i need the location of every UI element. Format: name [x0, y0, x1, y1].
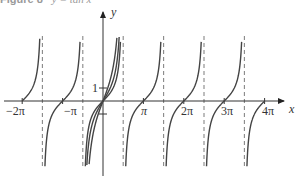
x-tick-label-3pi: 3π [221, 104, 233, 118]
x-tick-label-neg2pi: −2π [6, 104, 25, 118]
x-tick-label-4pi: 4π [262, 104, 274, 118]
tan-curves [22, 37, 264, 166]
x-tick-label-2pi: 2π [181, 104, 193, 118]
y-tick-label-1: 1 [92, 81, 98, 95]
x-tick-label-negpi: −π [64, 104, 77, 118]
y-axis-label: y [110, 5, 117, 19]
tangent-plot: y x 1 −2π −π π 2π 3π 4π [0, 0, 296, 176]
tan-branch [22, 39, 40, 101]
x-axis-label: x [288, 102, 295, 116]
x-tick-label-pi: π [141, 104, 148, 118]
